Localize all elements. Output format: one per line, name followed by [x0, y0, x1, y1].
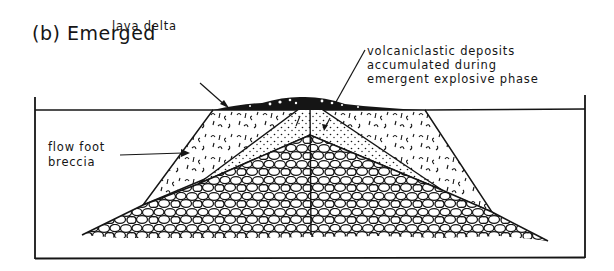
lava-delta-label: lava delta — [112, 19, 177, 33]
central-conduit-line — [310, 104, 311, 235]
lava-delta-cap — [213, 97, 425, 110]
volcaniclastic-label-line3: emergent explosive phase — [367, 72, 539, 86]
volcaniclastic-label-line2: accumulated during — [367, 58, 497, 72]
flow-foot-label-line2: breccia — [48, 155, 95, 169]
volcaniclastic-label-line1: volcaniclastic deposits — [367, 44, 515, 58]
volcaniclastic-leader — [336, 50, 365, 102]
flow-foot-label-line1: flow foot — [48, 140, 105, 154]
lava-delta-leader — [200, 83, 229, 108]
volcano-cross-section-diagram — [0, 0, 614, 271]
pillow-lava-core-fill — [82, 135, 548, 241]
